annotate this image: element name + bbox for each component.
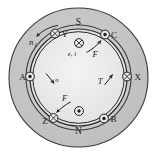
rotor-conductor-bottom[interactable] — [75, 107, 84, 116]
conductor-x-label: X — [135, 72, 142, 82]
conductor-b-label: B — [111, 114, 117, 124]
conductor-c-label: C — [111, 30, 117, 40]
force-f-lower-label: F — [61, 93, 68, 103]
machine-cross-section-figure: Y C A X Z B — [0, 0, 157, 154]
pole-label-s: S — [76, 17, 81, 27]
conductor-b-dot-glyph — [102, 117, 105, 120]
conductor-y-label: Y — [62, 29, 69, 39]
rotor-conductor-bottom-dot-glyph — [77, 109, 80, 112]
machine-diagram-svg: Y C A X Z B — [0, 0, 157, 154]
force-f-upper-label: F — [91, 49, 98, 59]
conductor-c-dot-glyph — [103, 33, 106, 36]
conductor-a-dot-glyph — [28, 75, 31, 78]
speed-n1-label: n — [29, 37, 33, 47]
speed-n-label: n — [55, 76, 59, 83]
speed-n1-subscript: 1 — [34, 42, 37, 48]
conductor-a-label: A — [19, 72, 26, 82]
emf-current-label: e, i — [68, 50, 76, 57]
rotor-conductor-top[interactable] — [75, 39, 84, 48]
conductor-z-label: Z — [42, 116, 48, 126]
pole-label-n: N — [75, 126, 82, 136]
conductor-a[interactable]: A — [19, 72, 34, 82]
